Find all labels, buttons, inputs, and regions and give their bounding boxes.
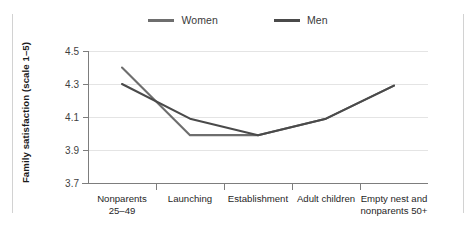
y-tick-label: 3.7	[65, 178, 79, 189]
x-tick-label: Adult children	[297, 193, 355, 204]
y-tick-label: 3.9	[65, 145, 79, 156]
x-tick-label: Empty nest and	[361, 193, 428, 204]
y-axis-tick-labels: 3.73.94.14.34.5	[65, 46, 79, 189]
x-tick-label: Establishment	[228, 193, 289, 204]
chart-plot-area: 3.73.94.14.34.5 Nonparents25–49Launching…	[0, 0, 476, 227]
series-line-women	[122, 68, 394, 136]
gridlines	[88, 51, 428, 183]
series-line-men	[122, 84, 394, 135]
x-axis-tick-labels: Nonparents25–49LaunchingEstablishmentAdu…	[97, 193, 428, 216]
data-series	[122, 68, 394, 136]
x-tick-label: nonparents 50+	[361, 205, 428, 216]
x-tick-label: 25–49	[109, 205, 136, 216]
x-tick-label: Nonparents	[97, 193, 147, 204]
y-tick-label: 4.3	[65, 79, 79, 90]
x-tick-label: Launching	[168, 193, 212, 204]
chart-figure: Women Men Family satisfaction (scale 1–5…	[0, 0, 476, 227]
y-tick-label: 4.5	[65, 46, 79, 57]
y-tick-label: 4.1	[65, 112, 79, 123]
